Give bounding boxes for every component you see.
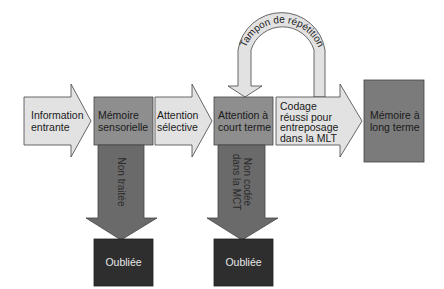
- short-term-attention-label: Attention à court terme: [218, 110, 276, 133]
- not-encoded-label: Non codée dans la MCT: [229, 147, 253, 217]
- forgotten-label-2: Oubliée: [214, 257, 273, 269]
- incoming-info-label: Information entrante: [31, 110, 91, 133]
- encoding-label: Codage réussi pour entreposage dans la M…: [280, 101, 344, 143]
- not-processed-label: Non traitée: [115, 147, 127, 217]
- forgotten-label-1: Oubliée: [94, 257, 153, 269]
- selective-attention-label: Attention sélective: [157, 110, 207, 133]
- sensory-memory-label: Mémoire sensorielle: [98, 110, 156, 133]
- long-term-memory-label: Mémoire à long terme: [370, 110, 428, 133]
- diagram-canvas: Tampon de répétition: [0, 0, 444, 289]
